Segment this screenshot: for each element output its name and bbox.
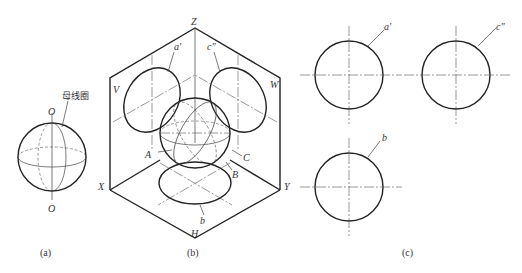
caption-b: (b)	[187, 247, 199, 259]
front-view-label: a'	[384, 21, 392, 32]
plane-v-label: V	[113, 84, 121, 95]
projection-front-label: a'	[174, 41, 182, 52]
projection-side-label: c"	[207, 41, 216, 52]
panel-c-orthographic: a' c" b (c)	[300, 21, 510, 259]
axis-z-label: Z	[191, 16, 197, 27]
generatrix-circle-annotation: 母线圈	[62, 90, 89, 101]
circle-b-label: B	[232, 169, 238, 180]
plane-h-label: H	[190, 228, 199, 239]
pole-bottom-label: O	[48, 203, 55, 214]
panel-b-isometric: Z X Y V W H a' c" b A B C (b)	[97, 16, 291, 259]
caption-a: (a)	[40, 247, 51, 259]
panel-a-sphere: O O 母线圈 (a)	[18, 90, 89, 259]
side-view-label: c"	[496, 21, 505, 32]
circle-a-label: A	[144, 149, 152, 160]
sphere-projection-figure: O O 母线圈 (a)	[0, 0, 522, 273]
circle-c-label: C	[243, 152, 250, 163]
projection-top-label: b	[200, 215, 205, 226]
axis-x-label: X	[97, 181, 105, 192]
top-view-label: b	[382, 132, 387, 143]
axis-y-label: Y	[284, 181, 291, 192]
caption-c: (c)	[402, 247, 413, 259]
pole-top-label: O	[48, 106, 55, 117]
plane-w-label: W	[270, 79, 280, 90]
